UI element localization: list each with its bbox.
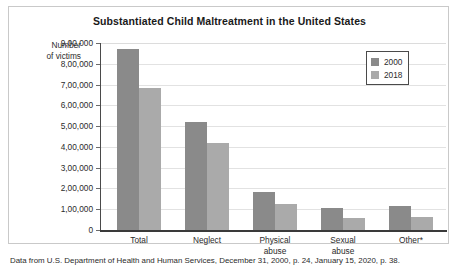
y-axis-tick-label: 6,00,000 xyxy=(31,100,93,110)
y-axis-tick-label: 1,00,000 xyxy=(31,204,93,214)
bar-group xyxy=(321,43,365,230)
legend-swatch-icon xyxy=(371,58,379,66)
y-axis-tick-labels: 9,00,0008,00,0007,00,0006,00,0005,00,000… xyxy=(27,7,93,245)
bar-2000-other xyxy=(389,206,411,230)
y-axis-tick-label: 3,00,000 xyxy=(31,163,93,173)
bar-group xyxy=(253,43,297,230)
legend-item-2000[interactable]: 2000 xyxy=(371,55,402,68)
y-axis-tick-label: 5,00,000 xyxy=(31,121,93,131)
bar-2000-physical-abuse xyxy=(253,192,275,230)
bar-group xyxy=(185,43,229,230)
x-axis-category-label-line1: Other* xyxy=(369,235,453,246)
y-axis-tick-label: 9,00,000 xyxy=(31,38,93,48)
chart-figure-frame: Substantiated Child Maltreatment in the … xyxy=(8,6,449,244)
y-axis-tick-label: 8,00,000 xyxy=(31,59,93,69)
bar-2018-physical-abuse xyxy=(275,204,297,230)
legend-item-label: 2000 xyxy=(384,57,402,67)
bar-2000-total xyxy=(117,49,139,230)
legend-swatch-icon xyxy=(371,71,379,79)
y-axis-tick-label: 2,00,000 xyxy=(31,183,93,193)
bar-2000-neglect xyxy=(185,122,207,230)
x-axis-category-label: Other* xyxy=(369,235,453,246)
chart-legend: 20002018 xyxy=(366,51,409,85)
bar-2018-sexual-abuse xyxy=(343,218,365,230)
x-axis-category-label-line2: abuse xyxy=(301,246,385,257)
bar-2018-neglect xyxy=(207,143,229,230)
source-note: Data from U.S. Department of Health and … xyxy=(10,256,400,265)
legend-item-label: 2018 xyxy=(384,70,402,80)
y-axis-tick-label: 7,00,000 xyxy=(31,80,93,90)
bar-2018-other xyxy=(411,217,433,231)
x-axis-line xyxy=(100,230,447,232)
y-axis-tick-label: 0 xyxy=(31,225,93,235)
bar-group xyxy=(117,43,161,230)
y-axis-tick-label: 4,00,000 xyxy=(31,142,93,152)
bar-2000-sexual-abuse xyxy=(321,208,343,230)
legend-item-2018[interactable]: 2018 xyxy=(371,68,402,81)
bar-2018-total xyxy=(139,88,161,230)
